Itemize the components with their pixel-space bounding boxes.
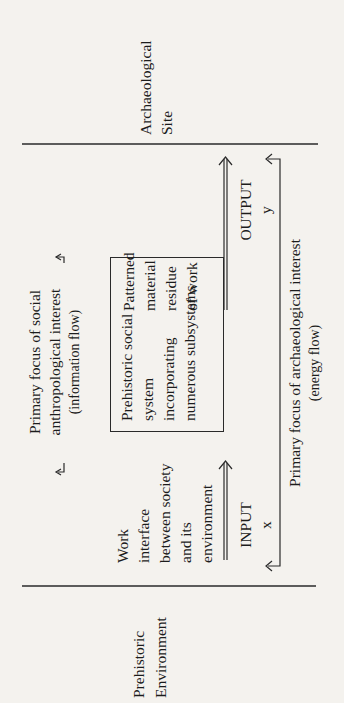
prehistoric-environment-label: Prehistoric Environment bbox=[128, 617, 172, 698]
input-label: INPUT x bbox=[236, 490, 276, 560]
systems-diagram: Prehistoric Environment Archaeological S… bbox=[0, 0, 344, 703]
material-residue-label: Patterned material residue of work bbox=[118, 252, 202, 311]
input-double-arrow bbox=[219, 461, 232, 560]
work-interface-label: Work interface between society and its e… bbox=[112, 464, 217, 563]
archaeological-site-label: Archaeological Site bbox=[135, 40, 177, 135]
info-flow-label: Primary focus of social anthropological … bbox=[25, 264, 85, 460]
energy-flow-label: Primary focus of archaeological interest… bbox=[285, 163, 325, 563]
output-label: OUTPUT y bbox=[236, 170, 276, 250]
